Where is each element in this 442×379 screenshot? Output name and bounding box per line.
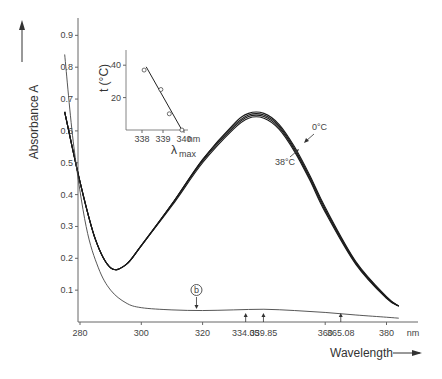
- inset-y-tick: 40: [111, 60, 121, 70]
- inset-x-tick: 338: [134, 134, 149, 144]
- x-tick-label: 380: [379, 328, 394, 338]
- inset-y-tick: 20: [111, 93, 121, 103]
- label-0c: 0°C: [312, 122, 328, 132]
- inset-y-title: t (°C): [97, 64, 111, 92]
- arrow-down-icon: [194, 305, 198, 309]
- x-tick-label: 320: [195, 328, 210, 338]
- temperature-curve: [65, 112, 399, 306]
- y-tick-label: 0.4: [60, 190, 73, 200]
- arrow-up-icon: [261, 313, 265, 317]
- x-unit-label: nm: [407, 328, 420, 338]
- temperature-curve: [65, 112, 399, 306]
- inset-data-point: [159, 88, 163, 92]
- inset-fit-line: [146, 67, 182, 130]
- label-38c: 38°C: [275, 157, 296, 167]
- label-b: b: [194, 285, 199, 295]
- y-axis-arrow-icon: [19, 20, 25, 30]
- temperature-curve: [65, 112, 399, 306]
- x-axis-arrow-icon: [412, 350, 422, 356]
- annotations: 0°C38°Cb334.05339.85365.08: [191, 122, 355, 338]
- inset-data-point: [180, 128, 184, 132]
- inset-x-tick: 339: [155, 134, 170, 144]
- arrow-up-icon: [244, 313, 248, 317]
- y-tick-label: 0.8: [60, 62, 73, 72]
- absorbance-chart: 0.10.20.30.40.50.60.70.80.92803003203603…: [0, 0, 442, 379]
- y-tick-label: 0.2: [60, 253, 73, 263]
- y-tick-label: 0.3: [60, 221, 73, 231]
- inset-data-point: [167, 112, 171, 116]
- y-tick-label: 0.7: [60, 94, 73, 104]
- inset-x-unit: nm: [188, 134, 201, 144]
- y-tick-label: 0.9: [60, 30, 73, 40]
- peak-wavelength-label: 339.85: [250, 328, 278, 338]
- inset-x-title: λ: [171, 143, 177, 157]
- inset-x-title-subscript: max: [179, 149, 197, 159]
- y-tick-label: 0.6: [60, 126, 73, 136]
- y-tick-label: 0.5: [60, 158, 73, 168]
- x-tick-label: 280: [72, 328, 87, 338]
- y-tick-label: 0.1: [60, 285, 73, 295]
- temperature-curve: [65, 112, 399, 306]
- inset-chart: 2040338339340nmt (°C)λmax: [97, 50, 200, 159]
- x-axis-title: Wavelength: [330, 346, 393, 360]
- x-tick-label: 300: [134, 328, 149, 338]
- peak-wavelength-label: 365.08: [327, 328, 355, 338]
- inset-data-point: [142, 68, 146, 72]
- y-axis-title: Absorbance A: [27, 85, 41, 160]
